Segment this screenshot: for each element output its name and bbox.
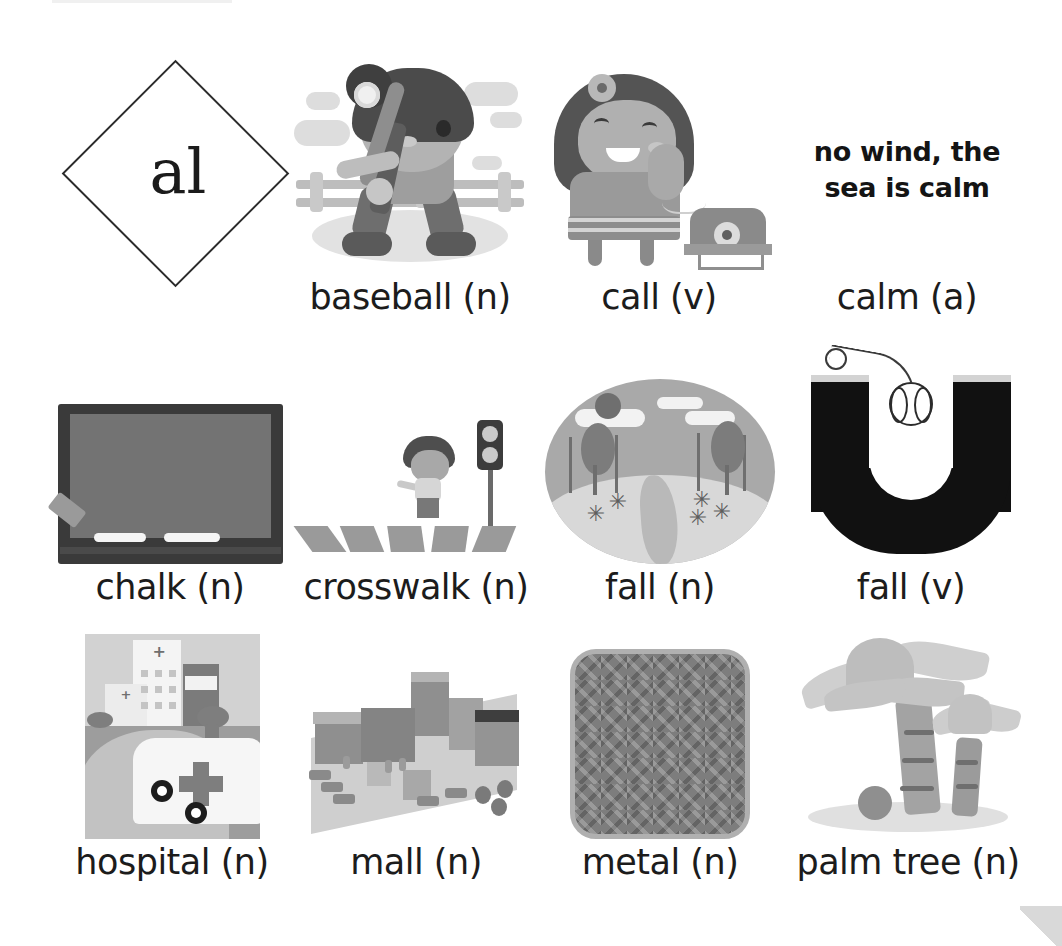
chalkboard-icon: [58, 404, 283, 564]
card-label: hospital (n): [75, 845, 268, 880]
phrase-line-2: sea is calm: [792, 170, 1022, 206]
card-calm[interactable]: no wind, the sea is calm calm (a): [782, 60, 1032, 315]
card-label: baseball (n): [309, 280, 510, 315]
card-label: chalk (n): [96, 570, 245, 605]
card-crosswalk[interactable]: crosswalk (n): [296, 370, 536, 605]
card-label: calm (a): [837, 280, 977, 315]
letter-u-falling-ball-icon: [811, 364, 1011, 564]
shopping-mall-icon: [299, 664, 534, 839]
card-label: fall (n): [605, 570, 715, 605]
calm-phrase-block: no wind, the sea is calm: [787, 60, 1027, 274]
card-metal[interactable]: metal (n): [540, 632, 780, 880]
card-palm-tree[interactable]: palm tree (n): [786, 632, 1030, 880]
phrase-line-1: no wind, the: [792, 134, 1022, 170]
card-fall-noun[interactable]: ✳ ✳ ✳ ✳ ✳ fall (n): [540, 370, 780, 605]
autumn-scene-icon: ✳ ✳ ✳ ✳ ✳: [545, 379, 775, 564]
card-label: crosswalk (n): [304, 570, 529, 605]
card-mall[interactable]: mall (n): [296, 632, 536, 880]
card-label: palm tree (n): [796, 845, 1019, 880]
phonics-key-label: al: [62, 56, 284, 286]
traffic-light-icon: [477, 420, 503, 470]
metal-plate-icon: [570, 649, 750, 839]
card-baseball[interactable]: baseball (n): [286, 60, 534, 315]
card-chalk[interactable]: chalk (n): [50, 370, 290, 605]
card-label: fall (v): [857, 570, 965, 605]
card-hospital[interactable]: + + hospital (n): [52, 632, 292, 880]
crosswalk-icon: [301, 404, 531, 564]
card-label: metal (n): [582, 845, 739, 880]
worksheet-page: al: [0, 0, 1062, 946]
baseball-icon: [889, 382, 933, 426]
card-fall-verb[interactable]: fall (v): [796, 360, 1026, 605]
card-label: mall (n): [350, 845, 482, 880]
card-call[interactable]: call (v): [540, 60, 778, 315]
card-label: call (v): [601, 280, 716, 315]
palm-trees-icon: [796, 634, 1021, 839]
hospital-ambulance-icon: + +: [85, 634, 260, 839]
top-edge-artifact: [52, 0, 232, 3]
girl-on-telephone-icon: [544, 60, 774, 274]
girl-batting-baseball-icon: [290, 60, 530, 274]
phonics-key-diamond: al: [62, 56, 284, 286]
bottom-right-artifact: [1020, 906, 1062, 946]
